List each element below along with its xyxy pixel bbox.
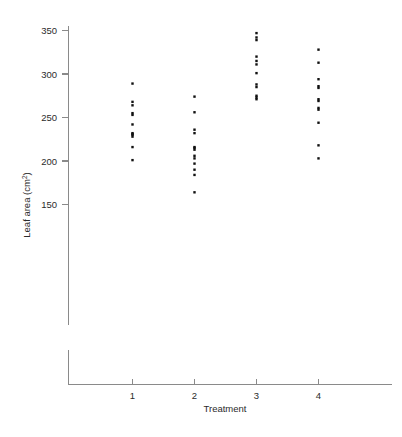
x-tick-label-3: 3 bbox=[254, 390, 259, 401]
data-point bbox=[193, 128, 195, 130]
data-point bbox=[193, 95, 195, 97]
data-point bbox=[317, 122, 319, 124]
data-point bbox=[255, 83, 257, 85]
x-tick-label-4: 4 bbox=[316, 390, 321, 401]
x-axis-ticks bbox=[133, 379, 319, 385]
data-point bbox=[193, 148, 195, 150]
data-point bbox=[131, 101, 133, 103]
data-point bbox=[131, 135, 133, 137]
data-point bbox=[317, 100, 319, 102]
x-tick-label-1: 1 bbox=[130, 390, 135, 401]
y-tick-label-250: 250 bbox=[41, 112, 57, 123]
data-points-layer bbox=[131, 32, 319, 194]
data-point bbox=[317, 48, 319, 50]
data-point bbox=[255, 60, 257, 62]
data-point bbox=[255, 98, 257, 100]
data-point bbox=[193, 111, 195, 113]
data-point bbox=[317, 78, 319, 80]
data-point bbox=[193, 191, 195, 193]
data-point bbox=[193, 157, 195, 159]
plot-canvas: 350 300 250 200 150 Leaf area (cm2) 1 2 … bbox=[0, 0, 402, 437]
data-point bbox=[131, 104, 133, 106]
data-point bbox=[317, 61, 319, 63]
y-axis-title-base: Leaf area (cm bbox=[21, 179, 32, 238]
data-point bbox=[193, 155, 195, 157]
data-point bbox=[255, 32, 257, 34]
data-point bbox=[255, 55, 257, 57]
y-axis-title-tail: ) bbox=[21, 172, 32, 175]
scatter-plot-figure: 350 300 250 200 150 Leaf area (cm2) 1 2 … bbox=[0, 0, 402, 437]
data-point bbox=[193, 174, 195, 176]
data-point bbox=[131, 123, 133, 125]
y-axis-ticks bbox=[62, 31, 69, 205]
y-tick-label-300: 300 bbox=[41, 69, 57, 80]
x-tick-label-2: 2 bbox=[192, 390, 197, 401]
data-point bbox=[255, 36, 257, 38]
data-point bbox=[131, 114, 133, 116]
data-point bbox=[131, 146, 133, 148]
data-point bbox=[255, 39, 257, 41]
y-tick-label-150: 150 bbox=[41, 199, 57, 210]
data-point bbox=[131, 82, 133, 84]
data-point bbox=[317, 108, 319, 110]
data-point bbox=[255, 86, 257, 88]
data-point bbox=[317, 157, 319, 159]
x-axis-tick-labels: 1 2 3 4 bbox=[130, 390, 321, 401]
data-point bbox=[193, 162, 195, 164]
data-point bbox=[317, 87, 319, 89]
data-point bbox=[131, 159, 133, 161]
data-point bbox=[193, 132, 195, 134]
y-tick-label-200: 200 bbox=[41, 156, 57, 167]
data-point bbox=[317, 144, 319, 146]
data-point bbox=[255, 72, 257, 74]
data-point bbox=[193, 169, 195, 171]
data-point bbox=[255, 63, 257, 65]
y-axis-tick-labels: 350 300 250 200 150 bbox=[41, 25, 57, 210]
y-axis-title: Leaf area (cm2) bbox=[21, 172, 33, 237]
y-tick-label-350: 350 bbox=[41, 25, 57, 36]
x-axis-title: Treatment bbox=[204, 403, 247, 414]
